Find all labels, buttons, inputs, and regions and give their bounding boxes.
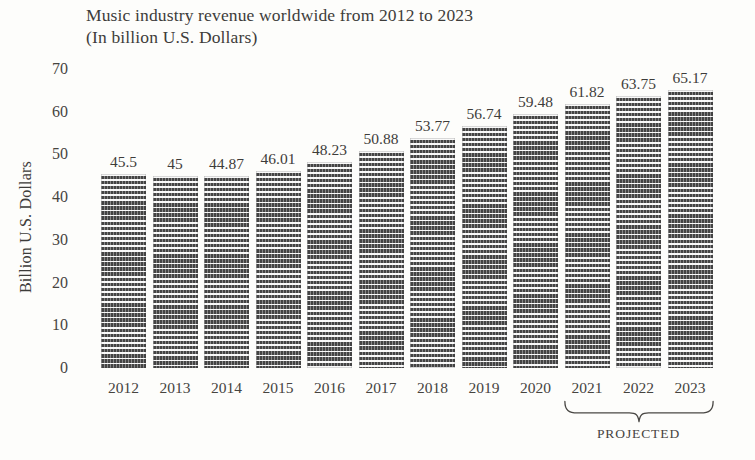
bar-2012[interactable] — [101, 174, 146, 368]
bar-2013[interactable] — [153, 176, 198, 368]
bar-2016[interactable] — [307, 162, 352, 368]
bar-2017[interactable] — [359, 151, 404, 368]
projected-brace-icon — [562, 399, 716, 425]
x-axis-tick-2023: 2023 — [654, 379, 727, 397]
bar-2018[interactable] — [410, 138, 455, 368]
bar-2014[interactable] — [204, 176, 249, 368]
bar-2021[interactable] — [565, 104, 610, 368]
plot-area: Billion U.S. Dollars 706050403020100 45.… — [0, 0, 755, 460]
projected-annotation-label: PROJECTED — [562, 426, 716, 442]
bar-2023[interactable] — [668, 90, 713, 368]
bar-2015[interactable] — [256, 171, 301, 368]
bar-2020[interactable] — [513, 114, 558, 368]
chart-page: Music industry revenue worldwide from 20… — [0, 0, 755, 460]
bar-value-label-2023: 65.17 — [654, 69, 727, 87]
bar-2022[interactable] — [616, 96, 661, 368]
bar-2019[interactable] — [462, 126, 507, 368]
bar-series: 45.5201245201344.87201446.01201548.23201… — [0, 0, 755, 460]
